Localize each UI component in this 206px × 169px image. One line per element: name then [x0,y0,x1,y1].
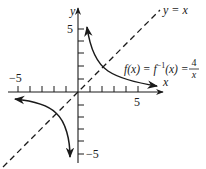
y-tick-label-5: 5 [67,22,73,36]
y-tick-label-neg5: −5 [86,147,99,161]
graph-canvas: y x 5 −5 5 −5 y = x f(x) = f−1(x) = 4 x [0,0,206,169]
identity-line-label: y = x [162,3,188,17]
x-tick-label-5: 5 [134,95,140,109]
frac-denominator: x [191,69,197,80]
svg-text:f(x) = f−1(x) =: f(x) = f−1(x) = [124,61,189,76]
x-axis-label: x [162,75,169,89]
func-sup: −1 [157,61,166,70]
curve-branch-q1 [87,27,157,86]
func-prefix: f(x) = f [124,63,158,76]
y-axis-label: y [69,4,76,18]
frac-numerator: 4 [192,57,197,68]
identity-line [3,10,160,167]
function-label: f(x) = f−1(x) = 4 x [124,57,199,80]
x-tick-label-neg5: −5 [9,71,22,85]
func-mid: (x) = [165,63,188,76]
